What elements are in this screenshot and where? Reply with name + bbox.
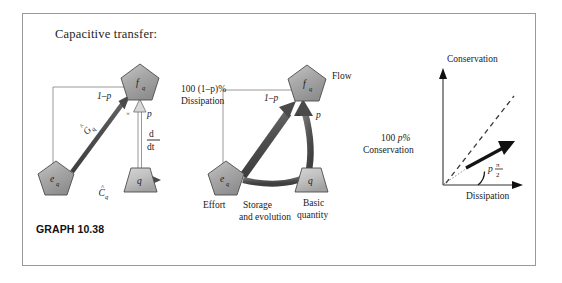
middle-effort-bottom-arrow [243, 178, 303, 184]
right-angle-label-two: 2 [496, 171, 500, 179]
middle-node-q: q [295, 168, 328, 192]
left-node-fq: f q [121, 64, 159, 100]
left-label-ddt: d dt [147, 129, 160, 152]
left-ddt-channel [134, 99, 146, 168]
left-label-times: × [126, 110, 130, 118]
middle-dissipation-arrow [243, 101, 296, 176]
right-reference-diagonal [446, 96, 514, 183]
right-label-side-line2: Conservation [363, 145, 414, 155]
left-node-eq-label: e [50, 174, 54, 184]
middle-label-storage-line1: Storage [243, 200, 272, 210]
right-angle-label-p: p [487, 164, 493, 174]
middle-node-q-label: q [308, 176, 313, 186]
right-y-axis-label: Conservation [447, 54, 498, 64]
right-label-100: 100 [381, 133, 398, 143]
middle-node-eq-label: e [220, 174, 224, 184]
right-label-p-percent: p% [397, 133, 411, 143]
middle-label-basic-line2: quantity [297, 210, 328, 220]
right-y-axis-arrowhead [439, 68, 447, 79]
middle-label-p: p [315, 110, 321, 120]
right-angle-label-pi: π [496, 161, 500, 169]
middle-node-eq: e q [208, 161, 244, 195]
left-node-eq: e q [38, 161, 74, 195]
left-node-q: q [124, 168, 157, 192]
middle-label-storage-line2: and evolution [239, 212, 291, 222]
left-label-p: p [146, 109, 152, 119]
left-label-one-minus-p: 1–p [97, 91, 112, 101]
middle-label-dissipation-line2: Dissipation [181, 96, 225, 106]
figure-root: Capacitive transfer: GRAPH 10.38 [0, 0, 562, 283]
left-label-ddt-numerator: d [149, 129, 154, 139]
middle-label-basic-line1: Basic [303, 198, 324, 208]
left-label-gq: ^ G q [77, 119, 97, 138]
left-label-cq: ^ C q [99, 183, 110, 201]
diagram-right-group: Conservation Dissipation 100 p% Conserva… [363, 54, 523, 201]
right-x-axis-arrowhead [512, 181, 523, 189]
left-node-q-label: q [137, 176, 142, 186]
right-angle-arc [478, 172, 485, 186]
middle-node-fq: f q [288, 65, 326, 101]
middle-label-times: × [296, 111, 300, 119]
middle-label-effort: Effort [203, 200, 226, 210]
right-angle-label: p π 2 [487, 161, 503, 179]
right-x-axis-label: Dissipation [466, 191, 510, 201]
left-label-cq-sub: q [105, 193, 109, 200]
left-label-ddt-denominator: dt [147, 142, 155, 152]
diagram-canvas: f q e q q 1–p p × ^ G q [0, 0, 562, 283]
left-gq-arrow [72, 95, 130, 172]
middle-label-dissipation-line1: 100 (1–p)% [181, 84, 226, 95]
diagram-left-group: f q e q q 1–p p × ^ G q [38, 64, 161, 200]
left-ddt-arrowhead [134, 99, 146, 112]
diagram-middle-group: f q e q q 100 (1–p)% Dissipation 1–p p ×… [181, 65, 352, 222]
right-label-side-line1: 100 p% [381, 133, 410, 143]
middle-label-one-minus-p: 1–p [264, 93, 279, 103]
middle-label-flow: Flow [332, 71, 352, 81]
